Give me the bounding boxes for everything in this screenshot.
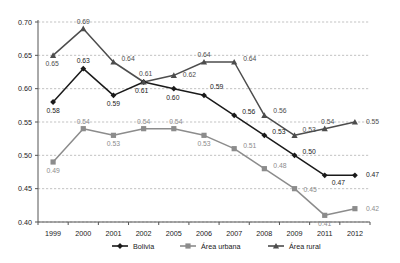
data-point-label: 0.51 bbox=[243, 142, 256, 149]
data-point-marker bbox=[171, 126, 176, 131]
legend-marker bbox=[185, 243, 190, 248]
legend-marker bbox=[117, 243, 123, 249]
chart-legend: BoliviaÁrea urbanaÁrea rural bbox=[112, 242, 321, 251]
legend-label: Área urbana bbox=[201, 242, 241, 251]
data-point-label: 0.60 bbox=[166, 94, 179, 101]
data-point-label: 0.47 bbox=[332, 179, 345, 186]
data-point-label: 0.56 bbox=[242, 108, 255, 115]
data-point-labels: 0.580.630.590.610.600.590.560.530.500.47… bbox=[45, 18, 379, 228]
data-point-marker bbox=[322, 213, 327, 218]
data-point-label: 0.61 bbox=[135, 87, 148, 94]
data-point-label: 0.53 bbox=[303, 126, 316, 133]
data-point-label: 0.54 bbox=[169, 118, 182, 125]
data-point-marker bbox=[292, 186, 297, 191]
y-axis-tick-label: 0.50 bbox=[18, 151, 32, 160]
data-point-label: 0.62 bbox=[183, 71, 196, 78]
data-point-label: 0.58 bbox=[46, 107, 59, 114]
data-point-marker bbox=[171, 86, 177, 92]
data-point-label: 0.61 bbox=[139, 70, 152, 77]
data-point-label: 0.63 bbox=[77, 57, 90, 64]
data-point-label: 0.53 bbox=[272, 128, 285, 135]
data-point-marker bbox=[352, 206, 357, 211]
data-point-label: 0.53 bbox=[197, 140, 210, 147]
x-axis-tick-label: 2012 bbox=[347, 229, 363, 238]
x-axis-tick-label: 2001 bbox=[105, 229, 121, 238]
x-axis-tick-label: 2005 bbox=[166, 229, 182, 238]
y-axis-tick-labels: 0.700.650.600.550.500.450.40 bbox=[18, 18, 32, 227]
data-point-marker bbox=[80, 26, 86, 32]
x-axis-tick-label: 2011 bbox=[317, 229, 332, 238]
data-point-label: 0.54 bbox=[321, 118, 334, 125]
x-axis-tick-label: 2009 bbox=[287, 229, 303, 238]
data-point-label: 0.54 bbox=[77, 118, 90, 125]
data-point-label: 0.42 bbox=[366, 205, 379, 212]
data-point-label: 0.64 bbox=[121, 55, 134, 62]
data-point-label: 0.65 bbox=[45, 60, 58, 67]
data-point-label: 0.64 bbox=[197, 51, 210, 58]
data-point-marker bbox=[81, 126, 86, 131]
data-point-label: 0.45 bbox=[304, 186, 317, 193]
data-point-label: 0.59 bbox=[107, 100, 120, 107]
data-point-label: 0.48 bbox=[273, 162, 286, 169]
x-axis-tick-label: 2000 bbox=[75, 229, 91, 238]
data-point-label: 0.49 bbox=[46, 167, 59, 174]
data-point-marker bbox=[232, 146, 237, 151]
line-chart: 0.700.650.600.550.500.450.40 19992000200… bbox=[0, 0, 400, 263]
x-axis-tick-label: 2007 bbox=[226, 229, 242, 238]
y-axis-tick-label: 0.45 bbox=[18, 184, 32, 193]
y-axis-tick-label: 0.40 bbox=[18, 218, 32, 227]
y-axis-tick-label: 0.60 bbox=[18, 84, 32, 93]
data-point-label: 0.54 bbox=[137, 118, 150, 125]
legend-label: Área rural bbox=[289, 242, 321, 251]
x-axis-tick-labels: 1999200020012002200520062007200820092011… bbox=[45, 229, 363, 238]
data-point-marker bbox=[352, 172, 358, 178]
data-point-marker bbox=[50, 159, 55, 164]
data-point-marker bbox=[111, 133, 116, 138]
data-point-label: 0.56 bbox=[273, 107, 286, 114]
x-axis-tick-label: 2008 bbox=[256, 229, 272, 238]
data-point-label: 0.55 bbox=[366, 118, 379, 125]
data-point-marker bbox=[201, 133, 206, 138]
data-point-marker bbox=[262, 166, 267, 171]
x-axis-tick-label: 2002 bbox=[136, 229, 152, 238]
data-point-label: 0.50 bbox=[303, 148, 316, 155]
data-point-label: 0.53 bbox=[107, 140, 120, 147]
y-axis-tick-label: 0.70 bbox=[18, 18, 32, 27]
x-axis-tick-label: 2006 bbox=[196, 229, 212, 238]
y-axis-tick-label: 0.65 bbox=[18, 51, 32, 60]
data-point-label: 0.47 bbox=[366, 171, 379, 178]
data-point-label: 0.64 bbox=[243, 55, 256, 62]
y-axis-tick-label: 0.55 bbox=[18, 118, 32, 127]
chart-container: 0.700.650.600.550.500.450.40 19992000200… bbox=[0, 0, 400, 263]
data-point-label: 0.59 bbox=[210, 83, 223, 90]
data-point-label: 0.69 bbox=[77, 18, 90, 25]
data-point-marker bbox=[141, 126, 146, 131]
legend-label: Bolivia bbox=[133, 242, 154, 251]
data-point-label: 0.41 bbox=[318, 220, 331, 227]
data-point-marker bbox=[261, 112, 267, 118]
x-axis-tick-label: 1999 bbox=[45, 229, 61, 238]
